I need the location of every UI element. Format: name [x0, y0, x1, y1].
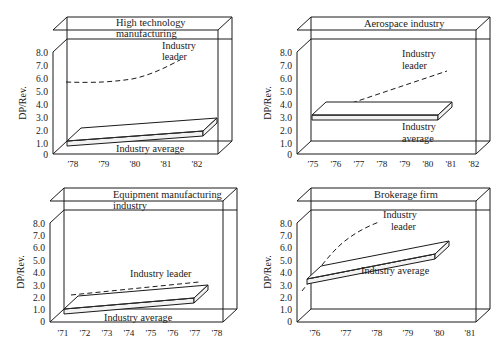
svg-text:'73: '73 — [102, 328, 113, 338]
svg-text:6.0: 6.0 — [280, 73, 292, 84]
svg-text:7.0: 7.0 — [36, 60, 48, 71]
svg-text:'75: '75 — [146, 328, 157, 338]
x-axis-ticks: '76 '77 '78 '79 '80 '81 — [310, 328, 476, 338]
svg-text:'82: '82 — [192, 159, 203, 169]
svg-text:3.0: 3.0 — [280, 112, 292, 123]
svg-text:'72: '72 — [80, 328, 91, 338]
y-axis-title: DP/Rev. — [262, 86, 273, 120]
panel-title: Aerospace industry — [364, 18, 445, 29]
svg-text:1.0: 1.0 — [33, 304, 45, 315]
x-axis-ticks: '71 '72 '73 '74 '75 '76 '77 '78 — [58, 328, 223, 338]
series-label-industry-average: Industry average — [402, 121, 437, 144]
svg-text:Industry: Industry — [402, 121, 437, 132]
svg-text:0: 0 — [43, 149, 48, 160]
svg-text:0: 0 — [287, 316, 292, 327]
series-label-industry-leader: Industry leader — [402, 48, 437, 71]
svg-text:'81: '81 — [446, 159, 457, 169]
svg-text:'80: '80 — [423, 159, 434, 169]
svg-text:6.0: 6.0 — [280, 242, 292, 253]
series-label-industry-leader: Industry leader — [130, 268, 192, 279]
svg-text:0: 0 — [287, 149, 292, 160]
svg-text:7.0: 7.0 — [280, 60, 292, 71]
svg-text:manufacturing: manufacturing — [116, 28, 177, 39]
svg-text:1.0: 1.0 — [280, 304, 292, 315]
x-axis-ticks: '75 '76 '77 '78 '79 '80 '81 '82 — [308, 159, 480, 169]
chart-panel-brokerage-firm: 8.0 7.0 6.0 5.0 4.0 3.0 2.0 1.0 0 DP/Rev… — [251, 176, 502, 351]
svg-text:'71: '71 — [58, 328, 69, 338]
svg-text:'78: '78 — [68, 159, 79, 169]
svg-text:'79: '79 — [400, 159, 411, 169]
series-industry-average — [312, 102, 452, 120]
svg-text:8.0: 8.0 — [280, 218, 292, 229]
svg-text:'81: '81 — [465, 328, 476, 338]
svg-text:3.0: 3.0 — [36, 112, 48, 123]
svg-text:'76: '76 — [168, 328, 179, 338]
series-label-industry-leader: Industry leader — [162, 40, 197, 62]
svg-text:leader: leader — [402, 60, 427, 71]
svg-text:'76: '76 — [310, 328, 321, 338]
y-axis-ticks: 8.0 7.0 6.0 5.0 4.0 3.0 2.0 1.0 0 — [280, 218, 292, 327]
y-axis-title: DP/Rev. — [17, 86, 28, 120]
series-label-industry-leader: Industry leader — [383, 209, 418, 232]
svg-text:4.0: 4.0 — [36, 99, 48, 110]
svg-text:2.0: 2.0 — [280, 125, 292, 136]
svg-text:6.0: 6.0 — [33, 242, 45, 253]
svg-text:average: average — [402, 133, 434, 144]
svg-text:'78: '78 — [212, 328, 223, 338]
y-axis-title: DP/Rev. — [15, 255, 26, 289]
series-industry-average — [64, 285, 208, 314]
svg-text:8.0: 8.0 — [36, 47, 48, 58]
svg-text:'80: '80 — [434, 328, 445, 338]
svg-text:Equipment manufacturing: Equipment manufacturing — [113, 189, 222, 200]
svg-text:3.0: 3.0 — [280, 280, 292, 291]
svg-text:'77: '77 — [354, 159, 365, 169]
chart-panel-equipment-manufacturing-industry: 8.0 7.0 6.0 5.0 4.0 3.0 2.0 1.0 0 DP/Rev… — [0, 176, 251, 351]
svg-text:Industry: Industry — [162, 40, 197, 51]
panel-title: High technology manufacturing — [116, 17, 186, 39]
svg-text:'76: '76 — [331, 159, 342, 169]
chart-panel-high-technology-manufacturing: 8.0 7.0 6.0 5.0 4.0 3.0 2.0 1.0 0 DP/Rev… — [0, 0, 251, 175]
svg-text:'80: '80 — [130, 159, 141, 169]
svg-text:'79: '79 — [99, 159, 110, 169]
y-axis-ticks: 8.0 7.0 6.0 5.0 4.0 3.0 2.0 1.0 0 — [33, 218, 45, 327]
svg-text:0: 0 — [40, 316, 45, 327]
svg-text:'77: '77 — [341, 328, 352, 338]
svg-text:industry: industry — [113, 200, 148, 211]
svg-text:5.0: 5.0 — [280, 86, 292, 97]
svg-text:'82: '82 — [469, 159, 480, 169]
series-industry-leader — [66, 60, 180, 82]
svg-text:8.0: 8.0 — [33, 218, 45, 229]
svg-text:'77: '77 — [190, 328, 201, 338]
svg-text:1.0: 1.0 — [280, 138, 292, 149]
y-axis-ticks: 8.0 7.0 6.0 5.0 4.0 3.0 2.0 1.0 0 — [280, 47, 292, 160]
svg-text:2.0: 2.0 — [33, 292, 45, 303]
svg-text:Industry: Industry — [383, 209, 418, 220]
svg-text:leader: leader — [391, 221, 416, 232]
series-label-industry-average: Industry average — [116, 143, 185, 154]
svg-text:'78: '78 — [377, 159, 388, 169]
svg-text:'78: '78 — [372, 328, 383, 338]
svg-text:6.0: 6.0 — [36, 73, 48, 84]
svg-text:1.0: 1.0 — [36, 138, 48, 149]
axis-box-3d — [297, 17, 490, 154]
svg-text:High technology: High technology — [116, 17, 186, 28]
svg-text:'79: '79 — [403, 328, 414, 338]
svg-text:5.0: 5.0 — [280, 255, 292, 266]
x-axis-ticks: '78 '79 '80 '81 '82 — [68, 159, 203, 169]
svg-text:'81: '81 — [161, 159, 172, 169]
svg-text:7.0: 7.0 — [33, 230, 45, 241]
svg-text:'74: '74 — [124, 328, 135, 338]
series-industry-average — [67, 118, 217, 146]
svg-text:8.0: 8.0 — [280, 47, 292, 58]
series-label-industry-average: Industry average — [361, 265, 430, 276]
svg-text:4.0: 4.0 — [33, 267, 45, 278]
series-industry-average — [307, 241, 449, 284]
svg-text:7.0: 7.0 — [280, 230, 292, 241]
svg-text:4.0: 4.0 — [280, 99, 292, 110]
four-panel-figure: 8.0 7.0 6.0 5.0 4.0 3.0 2.0 1.0 0 DP/Rev… — [0, 0, 502, 351]
svg-text:5.0: 5.0 — [36, 86, 48, 97]
panel-title: Equipment manufacturing industry — [113, 189, 222, 211]
chart-panel-aerospace-industry: 8.0 7.0 6.0 5.0 4.0 3.0 2.0 1.0 0 DP/Rev… — [251, 0, 502, 175]
panel-title: Brokerage firm — [374, 189, 438, 200]
svg-text:2.0: 2.0 — [280, 292, 292, 303]
